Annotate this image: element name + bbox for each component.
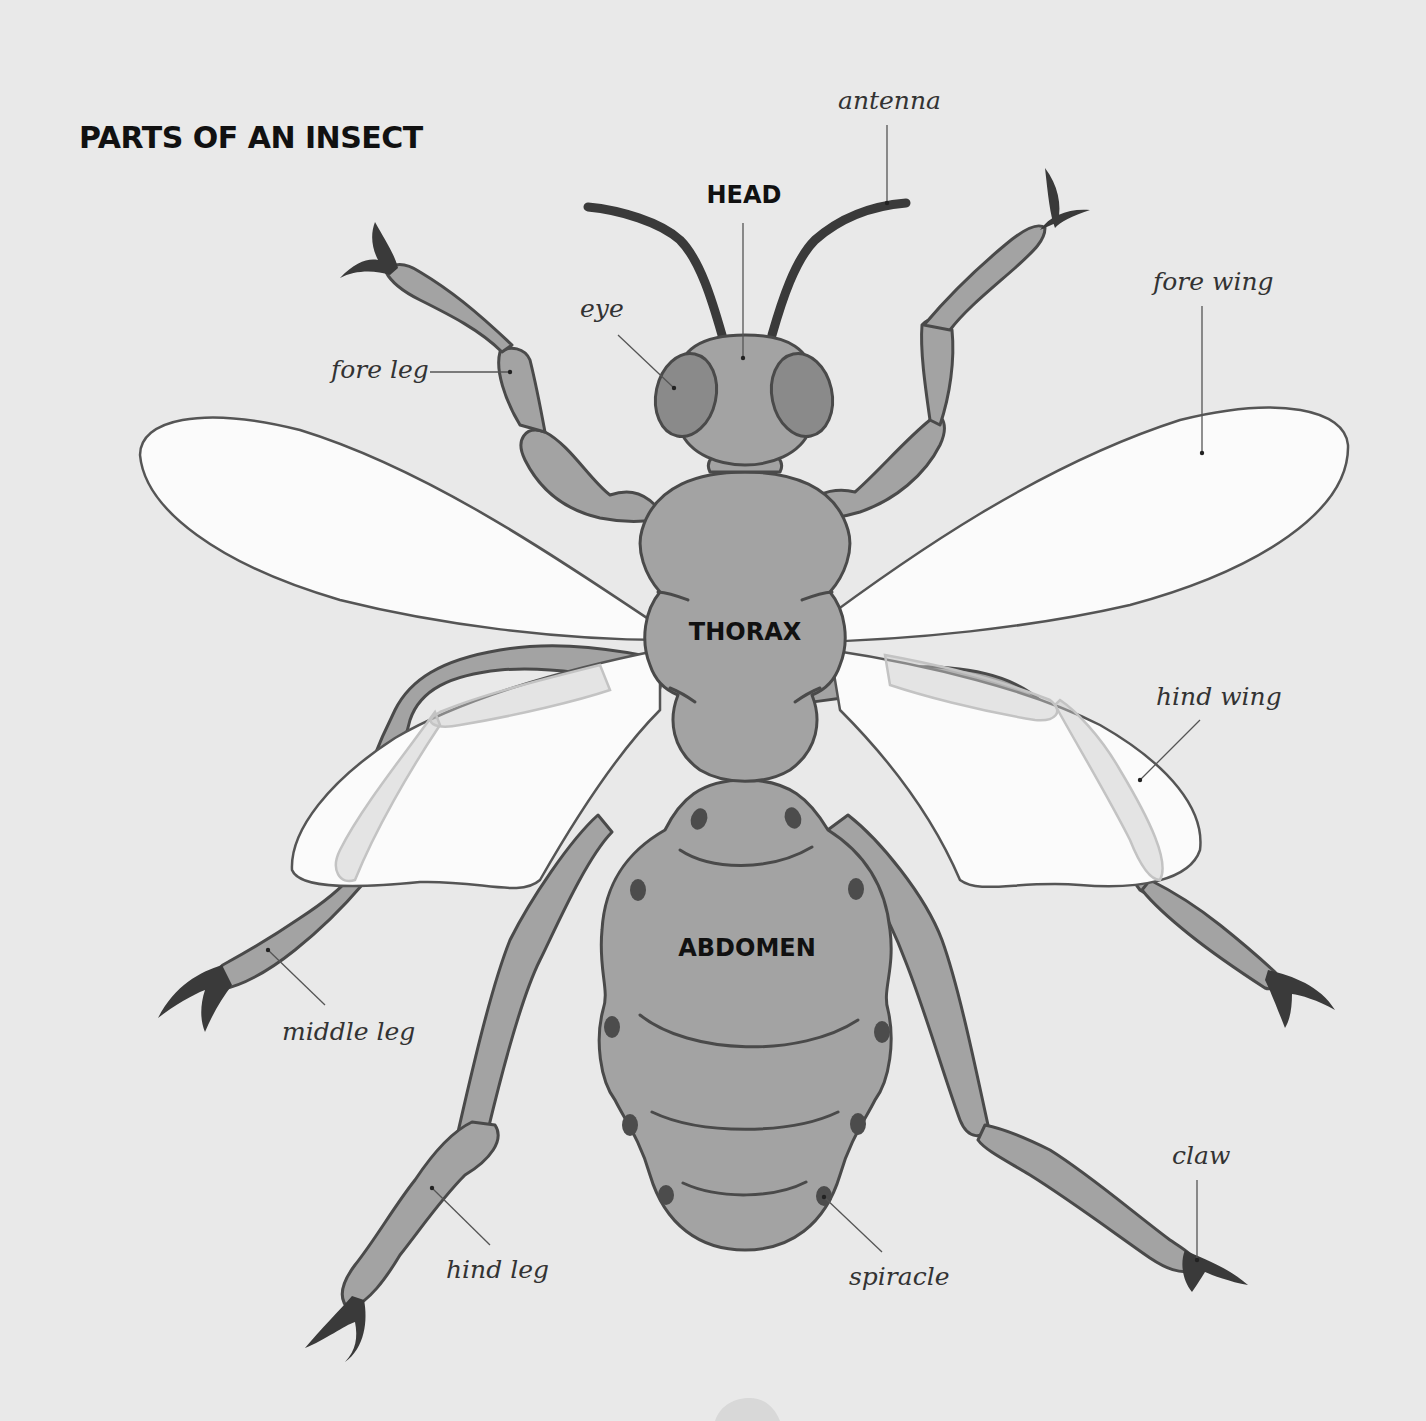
label-antenna: antenna <box>838 86 941 115</box>
hind-wing-left <box>292 650 660 888</box>
antennae <box>588 203 906 335</box>
insect-diagram: .b { fill: #a3a3a3; stroke: #4a4a4a; str… <box>0 0 1426 1421</box>
fore-wing-left <box>140 418 665 640</box>
label-abdomen: ABDOMEN <box>678 934 816 962</box>
fore-wing-right <box>810 408 1348 642</box>
label-eye: eye <box>580 294 624 323</box>
label-middle-leg: middle leg <box>282 1017 415 1046</box>
label-fore-wing: fore wing <box>1153 267 1274 296</box>
label-spiracle: spiracle <box>849 1262 949 1291</box>
page-marker <box>715 1398 780 1421</box>
label-head: HEAD <box>707 181 782 209</box>
label-hind-leg: hind leg <box>446 1255 549 1284</box>
label-thorax: THORAX <box>689 618 801 646</box>
label-claw: claw <box>1172 1141 1230 1170</box>
head <box>648 335 840 465</box>
label-hind-wing: hind wing <box>1156 682 1282 711</box>
diagram-title: PARTS OF AN INSECT <box>79 120 423 155</box>
abdomen <box>599 780 891 1250</box>
label-fore-leg: fore leg <box>331 355 429 384</box>
